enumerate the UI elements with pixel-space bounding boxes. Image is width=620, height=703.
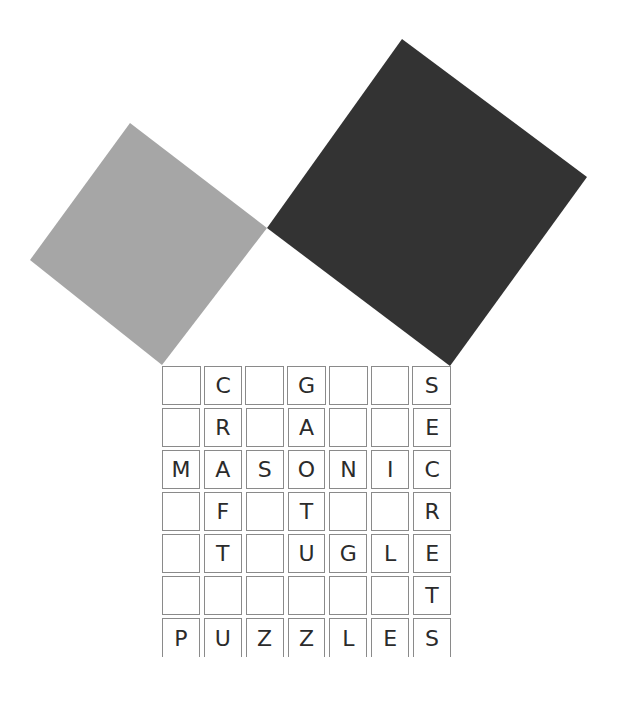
grid-cell: P — [162, 618, 200, 657]
grid-cell: E — [371, 618, 409, 657]
grid-cell: L — [371, 534, 409, 573]
grid-cell — [246, 492, 284, 531]
crossword-grid: C G S R A E M A S O N I C F T R T U G — [161, 366, 453, 660]
grid-cell — [162, 534, 200, 573]
grid-cell — [329, 492, 367, 531]
grid-cell: U — [288, 534, 326, 573]
grid-cell: L — [329, 618, 367, 657]
grid-cell — [162, 408, 200, 447]
grid-cell: R — [204, 408, 242, 447]
dark-square — [267, 39, 587, 366]
grid-cell: Z — [246, 618, 284, 657]
grid-cell — [371, 576, 409, 615]
grid-cell: U — [204, 618, 242, 657]
grid-cell: G — [287, 366, 326, 405]
grid-cell: M — [162, 450, 200, 489]
grid-row: C G S — [161, 366, 453, 408]
grid-cell: N — [329, 450, 367, 489]
grid-cell — [329, 366, 368, 405]
grid-row: R A E — [161, 408, 453, 450]
grid-cell: A — [288, 408, 326, 447]
grid-cell — [246, 576, 284, 615]
grid-row: M A S O N I C — [161, 450, 453, 492]
grid-row: P U Z Z L E S — [161, 618, 453, 660]
grid-cell — [162, 366, 201, 405]
grid-row: T U G L E — [161, 534, 453, 576]
grid-cell: S — [412, 366, 451, 405]
grid-cell: S — [246, 450, 284, 489]
grid-cell — [204, 576, 242, 615]
grid-cell — [246, 534, 284, 573]
grid-cell — [245, 366, 284, 405]
grid-cell: R — [413, 492, 451, 531]
grid-cell: T — [413, 576, 451, 615]
grid-cell — [162, 492, 200, 531]
grid-cell: I — [371, 450, 409, 489]
grid-row: T — [161, 576, 453, 618]
grid-cell: A — [204, 450, 242, 489]
grid-cell — [371, 408, 409, 447]
grid-cell — [329, 408, 367, 447]
grid-cell: C — [204, 366, 243, 405]
grid-cell — [288, 576, 326, 615]
grid-cell: T — [288, 492, 326, 531]
grid-cell: T — [204, 534, 242, 573]
grid-cell: G — [329, 534, 367, 573]
light-square — [30, 123, 267, 365]
grid-cell — [246, 408, 284, 447]
grid-row: F T R — [161, 492, 453, 534]
grid-cell: S — [413, 618, 451, 657]
grid-cell — [371, 492, 409, 531]
grid-cell: E — [413, 534, 451, 573]
grid-cell: E — [413, 408, 451, 447]
grid-cell: C — [413, 450, 451, 489]
grid-cell: O — [288, 450, 326, 489]
grid-cell — [371, 366, 410, 405]
grid-cell — [329, 576, 367, 615]
grid-cell — [162, 576, 200, 615]
grid-cell: F — [204, 492, 242, 531]
grid-cell: Z — [288, 618, 326, 657]
